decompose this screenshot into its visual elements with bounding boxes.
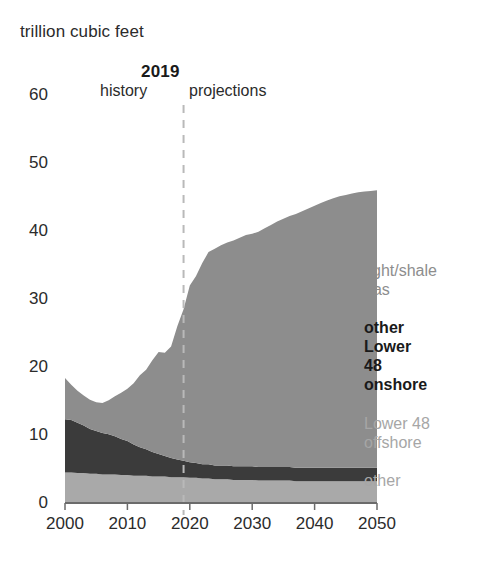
x-axis-tick-label-2000: 2000 xyxy=(34,515,96,532)
y-axis-tick-label-10: 10 xyxy=(2,426,48,443)
chart-root: trillion cubic feet 2019 history project… xyxy=(0,0,495,566)
stacked-area-series xyxy=(65,190,377,503)
x-axis-tick-label-2040: 2040 xyxy=(284,515,346,532)
legend-label-lower-48-offshore: Lower 48offshore xyxy=(364,414,430,452)
axis-lines xyxy=(65,503,377,510)
y-axis-tick-label-20: 20 xyxy=(2,358,48,375)
x-axis-tick-label-2020: 2020 xyxy=(159,515,221,532)
legend-label-tight-shale-gas: tight/shalegas xyxy=(364,261,437,299)
legend-label-other: other xyxy=(364,471,400,490)
y-axis-tick-label-0: 0 xyxy=(2,494,48,511)
y-axis-tick-label-40: 40 xyxy=(2,222,48,239)
x-axis-tick-label-2030: 2030 xyxy=(221,515,283,532)
x-axis-tick-label-2010: 2010 xyxy=(96,515,158,532)
x-axis-tick-label-2050: 2050 xyxy=(346,515,408,532)
y-axis-tick-label-30: 30 xyxy=(2,290,48,307)
legend-label-other-lower-48-onshore: otherLower48onshore xyxy=(364,318,427,394)
y-axis-tick-label-60: 60 xyxy=(2,86,48,103)
area-series-tight-shale-gas xyxy=(65,190,377,467)
y-axis-tick-label-50: 50 xyxy=(2,154,48,171)
